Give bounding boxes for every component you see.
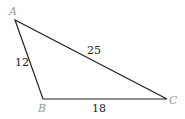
vertex-label-b: B — [37, 102, 46, 115]
triangle-abc — [15, 20, 167, 99]
side-label-bc: 18 — [92, 102, 106, 115]
vertex-label-c: C — [169, 94, 178, 107]
side-label-ac: 25 — [87, 44, 101, 57]
triangle-diagram: A B C 12 25 18 — [0, 0, 185, 119]
vertex-label-a: A — [8, 5, 17, 18]
side-label-ab: 12 — [15, 56, 29, 69]
